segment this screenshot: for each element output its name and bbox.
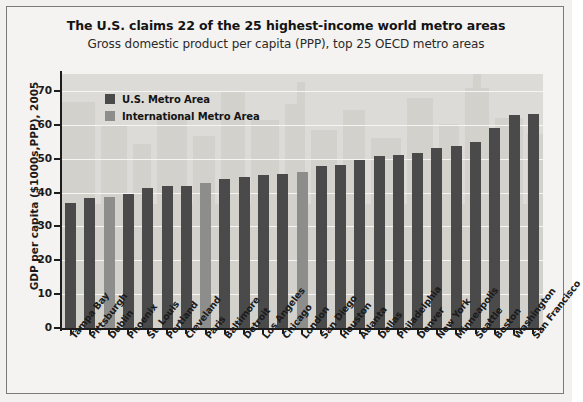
legend-item: U.S. Metro Area xyxy=(105,92,260,106)
legend: U.S. Metro AreaInternational Metro Area xyxy=(105,92,260,126)
legend-label: International Metro Area xyxy=(122,111,260,122)
legend-swatch-icon xyxy=(105,94,115,104)
legend-swatch-icon xyxy=(105,111,115,121)
legend-item: International Metro Area xyxy=(105,109,260,123)
legend-label: U.S. Metro Area xyxy=(122,94,210,105)
